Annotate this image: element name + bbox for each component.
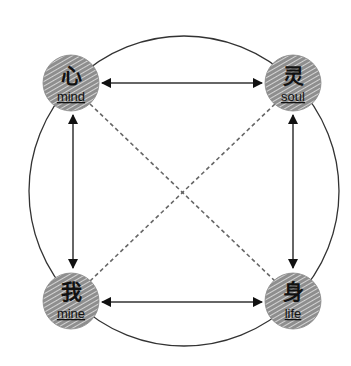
relationship-diagram: 心 mind 灵 soul 我 mine 身 life <box>0 0 351 366</box>
node-mine: 我 mine <box>43 273 99 329</box>
node-soul-cn: 灵 <box>283 64 305 88</box>
node-mine-en: mine <box>57 306 85 321</box>
node-soul-en: soul <box>281 89 305 104</box>
node-mind: 心 mind <box>43 55 99 111</box>
node-life-cn: 身 <box>283 280 304 304</box>
node-life: 身 life <box>265 273 321 329</box>
node-soul: 灵 soul <box>265 55 321 111</box>
node-mine-cn: 我 <box>61 280 82 304</box>
node-life-en: life <box>285 306 302 321</box>
node-mind-cn: 心 <box>61 64 82 88</box>
node-mind-en: mind <box>57 89 85 104</box>
